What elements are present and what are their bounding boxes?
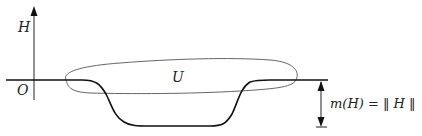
measure-label-end: ‖ bbox=[405, 96, 416, 111]
diagram-canvas: H O U m(H) = ‖ H ‖ bbox=[0, 0, 422, 136]
region-label-u: U bbox=[172, 69, 185, 85]
measure-label-rhs: H bbox=[393, 96, 406, 111]
axis-arrowhead-icon bbox=[31, 6, 38, 16]
axis-label-h: H bbox=[17, 19, 31, 35]
measure-label-lhs: m(H) bbox=[330, 96, 364, 111]
measure-arrow-up-icon bbox=[318, 81, 325, 91]
measure-arrow-down-icon bbox=[318, 117, 325, 127]
origin-label: O bbox=[17, 82, 29, 98]
measure-label: m(H) = ‖ H ‖ bbox=[330, 96, 416, 111]
graph-of-h bbox=[6, 80, 328, 126]
measure-label-eq: = ‖ bbox=[364, 96, 394, 111]
